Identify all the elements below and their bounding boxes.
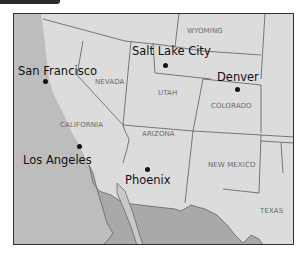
city-label-salt-lake-city: Salt Lake City [132,44,211,58]
city-label-los-angeles: Los Angeles [23,153,92,167]
city-dot-salt-lake-city [163,63,168,68]
city-dot-san-francisco [43,79,48,84]
city-label-san-francisco: San Francisco [18,64,97,78]
state-label-texas: TEXAS [260,207,283,215]
state-label-arizona: ARIZONA [142,130,175,138]
state-label-wyoming: WYOMING [187,27,223,35]
city-label-denver: Denver [217,70,259,84]
city-dot-phoenix [145,167,150,172]
header-tab [0,0,60,4]
state-label-utah: UTAH [158,89,177,97]
city-dot-denver [235,87,240,92]
state-label-colorado: COLORADO [211,102,252,110]
state-label-nevada: NEVADA [95,78,124,86]
state-label-california: CALIFORNIA [60,121,103,129]
city-dot-los-angeles [77,144,82,149]
city-label-phoenix: Phoenix [125,173,171,187]
map: WYOMING NEVADA UTAH COLORADO CALIFORNIA … [13,13,294,245]
state-label-new-mexico: NEW MEXICO [208,161,256,169]
